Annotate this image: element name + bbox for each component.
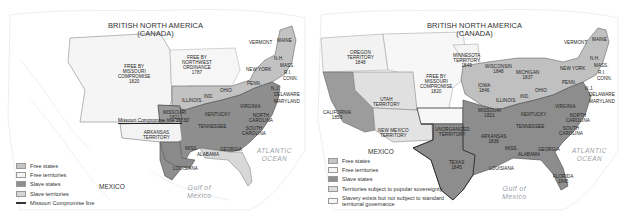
- label-minnesota-territory: MINNESOTA TERRITORY 1849: [453, 53, 480, 68]
- label-north-carolina: NORTH CAROLINA: [249, 113, 273, 123]
- swatch-slave-territories: [16, 191, 26, 197]
- legend-item-free-states: Free states: [16, 161, 94, 170]
- label-atlantic-ocean: ATLANTIC OCEAN: [257, 147, 292, 162]
- label-delaware: DELAWARE: [589, 92, 615, 97]
- label-tennessee: TENNESSEE: [198, 124, 226, 129]
- swatch-slave-states: [16, 181, 26, 187]
- label-free-by-northwest: FREE BY NORTHWEST ORDINANCE 1787: [182, 55, 212, 75]
- label-nj: N.J.: [271, 86, 279, 91]
- region-label-canada: BRITISH NORTH AMERICA (CANADA): [427, 22, 522, 38]
- legend-item-free-states: Free states: [328, 156, 462, 165]
- label-ind: IND.: [204, 94, 213, 99]
- label-missouri: MISSOURI 1821: [478, 108, 501, 118]
- label-free-by-missouri: FREE BY MISSOURI COMPROMISE 1820: [118, 64, 150, 84]
- map-compromise-1850: BRITISH NORTH AMERICA (CANADA) OREGON TE…: [313, 0, 626, 218]
- swatch-slave-states: [328, 176, 338, 182]
- label-vermont: VERMONT: [564, 40, 587, 45]
- label-illinois: ILLINOIS: [496, 98, 515, 103]
- label-penn: PENN.: [247, 81, 261, 86]
- label-miss: MISS.: [505, 146, 518, 151]
- legend-item-slave-territories: Slave territories: [16, 189, 94, 198]
- label-new-mexico-territory: NEW MEXICO TERRITORY: [378, 128, 409, 138]
- label-conn: CONN.: [597, 76, 612, 81]
- swatch-free-territories: [16, 172, 26, 178]
- region-label-canada: BRITISH NORTH AMERICA (CANADA): [108, 22, 203, 38]
- label-mexico: MEXICO: [99, 184, 125, 190]
- label-nh: N.H.: [274, 56, 283, 61]
- label-wisconsin: WISCONSIN 1848: [485, 64, 512, 74]
- label-florida: FLORIDA 1845: [553, 174, 573, 184]
- label-ohio: OHIO: [220, 88, 232, 93]
- label-kentucky: KENTUCKY: [521, 112, 546, 117]
- label-unorganized-territory: UNORGANIZED TERRITORY: [435, 127, 470, 137]
- legend-item-popular-sovereignty: Territories subject to popular sovereign…: [328, 184, 462, 193]
- legend-item-slave-states: Slave states: [16, 180, 94, 189]
- label-oregon-territory: OREGON TERRITORY 1848: [347, 50, 374, 65]
- label-arkansas-territory: ARKANSAS TERRITORY: [143, 130, 170, 140]
- label-maryland: MARYLAND: [589, 99, 615, 104]
- label-arkansas: ARKANSAS 1836: [481, 134, 506, 144]
- label-new-york: NEW YORK: [560, 66, 585, 71]
- label-georgia: GEORGIA: [220, 147, 242, 152]
- label-michigan: MICHIGAN 1837: [516, 70, 539, 80]
- label-louisiana: LOUISIANA: [173, 166, 198, 171]
- swatch-line: [16, 202, 26, 204]
- label-utah-territory: UTAH TERRITORY: [373, 97, 400, 107]
- swatch-free-territories: [328, 167, 338, 173]
- label-iowa: IOWA 1846: [478, 83, 490, 93]
- legend-item-free-territories: Free territories: [328, 165, 462, 174]
- label-missouri-compromise-line: Missouri Compromise line 36°30': [118, 118, 190, 124]
- legend-item-missouri-compromise-line: Missouri Compromise line: [16, 199, 94, 208]
- label-tennessee: TENNESSEE: [516, 124, 544, 129]
- label-gulf-of-mexico: Gulf of Mexico: [187, 184, 212, 199]
- legend-item-unorganized: Slavery exists but not subject to standa…: [328, 194, 462, 209]
- label-mass: MASS.: [280, 63, 295, 68]
- label-illinois: ILLINOIS: [182, 98, 201, 103]
- label-kentucky: KENTUCKY: [205, 112, 230, 117]
- label-ri: R.I.: [598, 70, 605, 75]
- label-virginia: VIRGINIA: [240, 104, 261, 109]
- label-mass: MASS.: [594, 63, 609, 68]
- legend-left: Free states Free territories Slave state…: [16, 161, 94, 208]
- swatch-free-states: [16, 163, 26, 169]
- label-penn: PENN.: [562, 80, 576, 85]
- label-south-carolina: SOUTH CAROLINA: [242, 126, 266, 136]
- swatch-unorganized: [328, 198, 338, 204]
- label-atlantic-ocean: ATLANTIC OCEAN: [572, 147, 607, 162]
- label-free-by-missouri: FREE BY MISSOURI COMPROMISE 1820: [420, 74, 452, 94]
- legend-item-free-territories: Free territories: [16, 170, 94, 179]
- label-alabama: ALABAMA: [197, 152, 219, 157]
- label-nh: N.H.: [590, 56, 599, 61]
- label-louisiana: LOUISIANA: [489, 166, 514, 171]
- label-mexico: MEXICO: [368, 149, 394, 155]
- label-ind: IND.: [520, 94, 529, 99]
- swatch-free-states: [328, 158, 338, 164]
- label-miss: MISS.: [185, 146, 198, 151]
- label-ohio: OHIO: [535, 88, 547, 93]
- label-north-carolina: NORTH CAROLINA: [566, 113, 590, 123]
- label-georgia: GEORGIA: [538, 147, 560, 152]
- label-maine: MAINE: [592, 37, 607, 42]
- label-gulf-of-mexico: Gulf of Mexico: [502, 185, 527, 200]
- label-nj: N.J.: [585, 86, 593, 91]
- label-new-york: NEW YORK: [246, 67, 271, 72]
- label-alabama: ALABAMA: [518, 152, 540, 157]
- label-maryland: MARYLAND: [274, 99, 300, 104]
- label-california: CALIFORNIA 1850: [323, 110, 351, 120]
- label-maine: MAINE: [277, 38, 292, 43]
- label-vermont: VERMONT: [249, 40, 272, 45]
- label-delaware: DELAWARE: [274, 92, 300, 97]
- label-south-carolina: SOUTH CAROLINA: [559, 126, 583, 136]
- label-ri: R.I.: [284, 70, 291, 75]
- swatch-popular-sovereignty: [328, 186, 338, 192]
- legend-right: Free states Free territories Slave state…: [328, 156, 462, 209]
- legend-item-slave-states: Slave states: [328, 175, 462, 184]
- label-virginia: VIRGINIA: [555, 104, 576, 109]
- map-missouri-compromise-1820: BRITISH NORTH AMERICA (CANADA) FREE BY M…: [0, 0, 313, 218]
- label-conn: CONN.: [283, 76, 298, 81]
